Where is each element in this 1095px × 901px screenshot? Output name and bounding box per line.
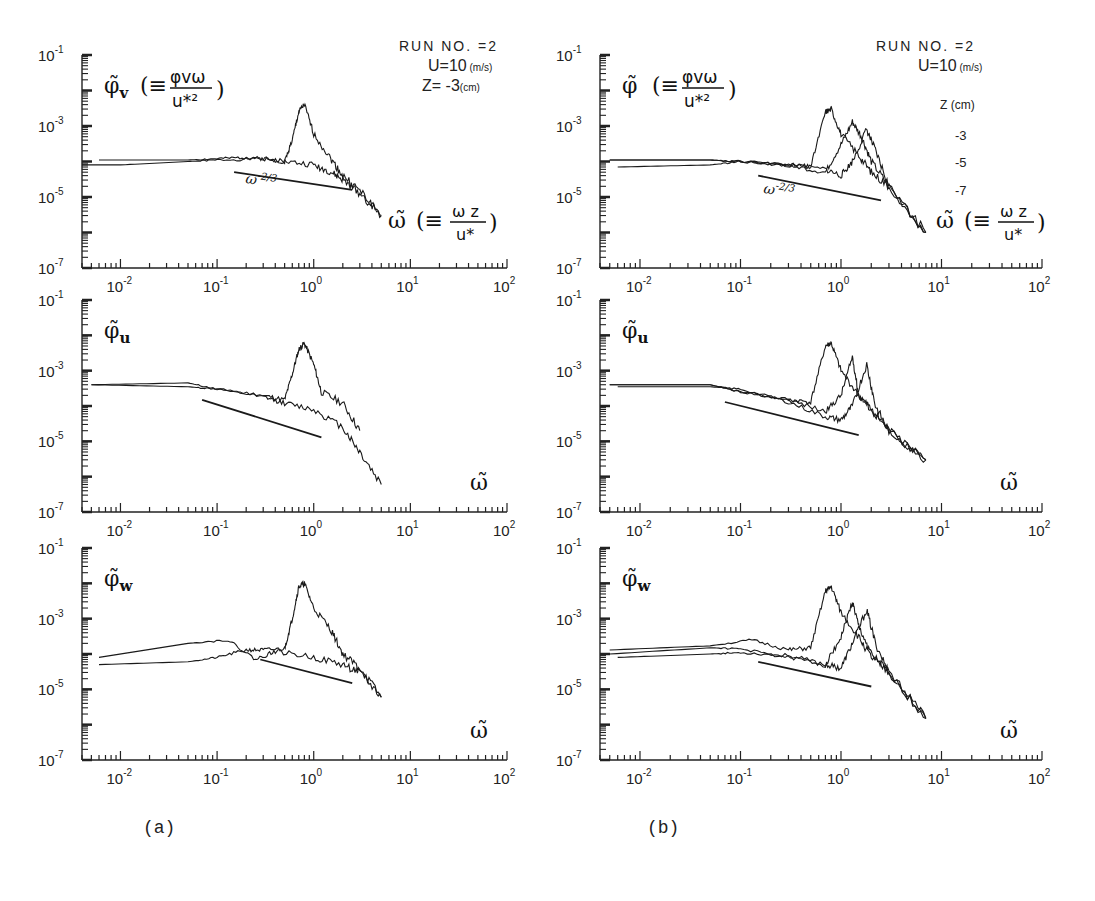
svg-text:(≡: (≡ xyxy=(140,73,167,98)
svg-text:101: 101 xyxy=(927,275,950,295)
svg-text:10-5: 10-5 xyxy=(556,186,582,206)
svg-text:101: 101 xyxy=(927,519,950,539)
svg-text:10-3: 10-3 xyxy=(38,115,64,135)
panel-a-phi-w: 10-210-110010110210-710-510-310-1φ̃wω̃ xyxy=(38,537,516,787)
svg-text:10-1: 10-1 xyxy=(726,519,752,539)
x-tick-labels: 10-210-1100101102 xyxy=(626,767,1051,787)
y-tick-labels: 10-710-510-310-1 xyxy=(556,44,582,277)
svg-text:10-1: 10-1 xyxy=(203,519,229,539)
svg-text:10-7: 10-7 xyxy=(556,501,582,521)
x-tick-labels: 10-210-1100101102 xyxy=(626,275,1051,295)
x-tick-labels: 10-210-1100101102 xyxy=(626,519,1051,539)
slope-annotation: ω-2/3 xyxy=(763,178,796,201)
slope-annotation: ω-2/3 xyxy=(245,168,278,191)
svg-text:102: 102 xyxy=(493,519,516,539)
legend-title: Z (cm) xyxy=(940,98,975,112)
svg-text:10-5: 10-5 xyxy=(556,678,582,698)
axes xyxy=(600,548,1042,760)
y-axis-label: φ̃u xyxy=(622,318,648,347)
svg-text:φ̃: φ̃ xyxy=(622,73,637,98)
y-tick-labels: 10-710-510-310-1 xyxy=(38,537,64,769)
svg-text:u*²: u*² xyxy=(172,91,198,111)
svg-text:10-7: 10-7 xyxy=(556,257,582,277)
svg-text:): ) xyxy=(489,210,498,235)
x-axis-label: ω̃(≡ω zu*) xyxy=(388,202,498,244)
svg-text:10-7: 10-7 xyxy=(556,749,582,769)
svg-text:10-3: 10-3 xyxy=(556,115,582,135)
wind-speed-b: U=10 (m/s) xyxy=(918,57,982,75)
spectrum-curve xyxy=(610,603,926,719)
x-tick-labels: 10-210-1100101102 xyxy=(106,519,515,539)
svg-text:10-7: 10-7 xyxy=(38,257,64,277)
svg-text:(≡: (≡ xyxy=(416,208,443,233)
svg-text:10-2: 10-2 xyxy=(626,275,652,295)
svg-text:φvω: φvω xyxy=(170,67,206,87)
legend-entry-3: -7 xyxy=(955,183,967,198)
svg-text:10-1: 10-1 xyxy=(726,275,752,295)
svg-text:(≡: (≡ xyxy=(652,73,679,98)
svg-text:φ̃u: φ̃u xyxy=(622,318,648,347)
y-axis-label: φ̃w xyxy=(104,566,133,595)
svg-text:10-2: 10-2 xyxy=(106,275,132,295)
legend-entry-2: -5 xyxy=(955,155,967,170)
panel-label-b: (b) xyxy=(647,818,679,838)
svg-text:(≡: (≡ xyxy=(964,208,991,233)
x-tick-labels: 10-210-1100101102 xyxy=(106,275,515,295)
slope-reference-line xyxy=(202,400,321,438)
svg-text:10-3: 10-3 xyxy=(38,360,64,380)
svg-text:10-5: 10-5 xyxy=(38,678,64,698)
svg-text:10-2: 10-2 xyxy=(626,519,652,539)
svg-text:102: 102 xyxy=(1028,767,1051,787)
y-tick-labels: 10-710-510-310-1 xyxy=(38,289,64,521)
svg-text:): ) xyxy=(216,77,225,102)
y-axis-label: φ̃u xyxy=(104,318,130,347)
wind-speed-a: U=10 (m/s) xyxy=(428,57,492,75)
run-number-b: RUN NO. =2 xyxy=(876,38,975,54)
panel-b-phi: 10-210-110010110210-710-510-310-1φ̃(≡φvω… xyxy=(556,44,1051,295)
svg-text:φ̃w: φ̃w xyxy=(622,566,651,595)
svg-text:101: 101 xyxy=(927,767,950,787)
spectrum-curve xyxy=(91,342,359,431)
spectra-figure: 10-210-110010110210-710-510-310-1φ̃v(≡φv… xyxy=(0,0,1095,901)
spectrum-curve xyxy=(99,157,381,218)
svg-text:10-1: 10-1 xyxy=(726,767,752,787)
legend-entry-1: -3 xyxy=(955,128,967,143)
svg-text:ω̃: ω̃ xyxy=(1000,470,1018,495)
y-axis-label: φ̃(≡φvωu*²) xyxy=(622,67,737,111)
spectrum-curve xyxy=(99,640,381,697)
run-number-a: RUN NO. =2 xyxy=(399,38,498,54)
svg-text:u*: u* xyxy=(456,225,474,244)
y-tick-labels: 10-710-510-310-1 xyxy=(38,44,64,277)
svg-text:102: 102 xyxy=(493,275,516,295)
svg-text:102: 102 xyxy=(1028,519,1051,539)
svg-text:100: 100 xyxy=(300,767,323,787)
spectrum-curve xyxy=(618,362,926,462)
svg-text:10-1: 10-1 xyxy=(38,289,64,309)
svg-text:101: 101 xyxy=(396,767,419,787)
svg-text:ω z: ω z xyxy=(452,202,479,221)
svg-text:10-7: 10-7 xyxy=(38,749,64,769)
axes xyxy=(600,300,1042,512)
svg-text:): ) xyxy=(728,77,737,102)
svg-text:10-1: 10-1 xyxy=(556,537,582,557)
svg-text:10-2: 10-2 xyxy=(626,767,652,787)
x-axis-label: ω̃ xyxy=(470,470,488,495)
panel-a-phi-u: 10-210-110010110210-710-510-310-1φ̃uω̃ xyxy=(38,289,516,539)
svg-text:100: 100 xyxy=(300,275,323,295)
svg-text:φ̃v: φ̃v xyxy=(104,73,129,102)
svg-text:10-1: 10-1 xyxy=(556,289,582,309)
svg-text:10-1: 10-1 xyxy=(203,767,229,787)
svg-text:): ) xyxy=(1037,210,1046,235)
svg-text:10-5: 10-5 xyxy=(38,186,64,206)
y-tick-labels: 10-710-510-310-1 xyxy=(556,537,582,769)
svg-text:10-1: 10-1 xyxy=(38,537,64,557)
spectrum-curve xyxy=(610,107,926,233)
svg-text:ω̃: ω̃ xyxy=(470,718,488,743)
svg-text:10-7: 10-7 xyxy=(38,501,64,521)
x-tick-labels: 10-210-1100101102 xyxy=(106,767,515,787)
x-axis-label: ω̃ xyxy=(1000,718,1018,743)
x-axis-label: ω̃ xyxy=(1000,470,1018,495)
svg-text:10-3: 10-3 xyxy=(556,608,582,628)
x-axis-label: ω̃ xyxy=(470,718,488,743)
y-axis-label: φ̃v(≡φvωu*²) xyxy=(104,67,225,111)
